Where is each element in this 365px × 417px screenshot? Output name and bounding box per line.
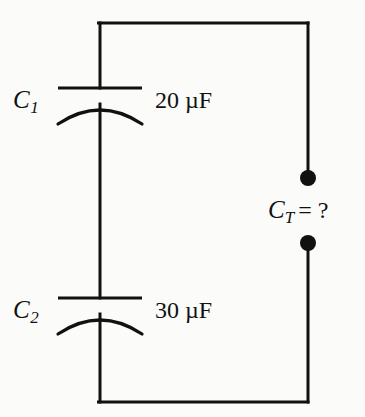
capacitor-c1-designator-letter: C <box>13 86 30 113</box>
capacitor-c1-designator-subscript: 1 <box>30 98 39 117</box>
total-capacitance-unknown: = ? <box>298 197 328 223</box>
top-terminal-dot <box>300 170 316 186</box>
capacitor-c2-value: 30 µF <box>155 298 212 322</box>
total-capacitance-letter: C <box>268 196 285 223</box>
total-capacitance-label: CT= ? <box>268 197 328 222</box>
capacitor-c2-designator-letter: C <box>13 296 30 323</box>
bottom-terminal-dot <box>300 235 316 251</box>
total-capacitance-subscript: T <box>285 208 294 227</box>
capacitor-c1-value: 20 µF <box>155 88 212 112</box>
capacitor-c2-designator: C2 <box>13 297 38 322</box>
capacitor-c2-designator-subscript: 2 <box>30 308 39 327</box>
circuit-diagram-figure: C1 20 µF C2 30 µF CT= ? <box>0 0 365 417</box>
capacitor-c1-designator: C1 <box>13 87 38 112</box>
